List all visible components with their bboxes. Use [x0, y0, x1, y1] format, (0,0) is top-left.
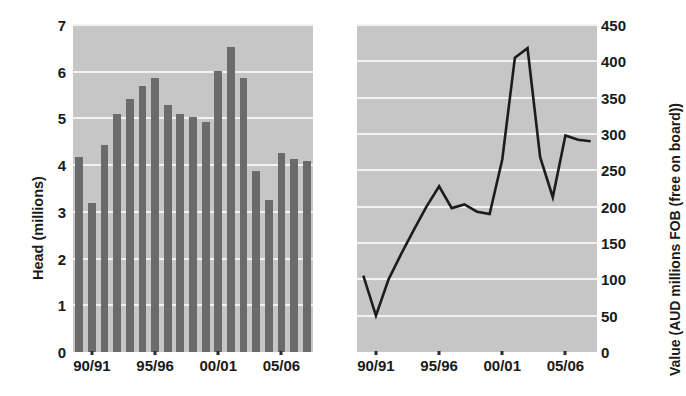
bar — [252, 171, 260, 352]
bar — [265, 200, 273, 352]
bar — [113, 114, 121, 352]
line-chart-plot-area — [357, 25, 597, 352]
y-tick-label: 100 — [601, 272, 626, 287]
two-panel-figure: 76543210 Head (millions) 90/9195/9600/01… — [0, 0, 686, 396]
x-tick-label: 00/01 — [199, 357, 237, 374]
value-line — [363, 48, 590, 315]
bar — [240, 78, 248, 352]
bar — [139, 86, 147, 352]
x-tick-mark — [501, 351, 504, 355]
y-tick-label: 0 — [601, 345, 609, 360]
bar — [290, 159, 298, 352]
bar — [176, 114, 184, 352]
x-tick-mark — [280, 351, 283, 355]
x-tick-mark — [438, 351, 441, 355]
bar — [214, 71, 222, 352]
line-chart-panel: 450400350300250200150100500 Value (AUD m… — [343, 0, 686, 396]
line-chart-y-axis-ticks: 450400350300250200150100500 — [601, 25, 647, 352]
bar — [189, 117, 197, 352]
line-chart-x-axis-labels: 90/9195/9600/0105/06 — [357, 357, 597, 379]
x-tick-label: 95/96 — [420, 357, 458, 374]
line-series — [357, 25, 597, 352]
y-tick-label: 2 — [58, 252, 66, 267]
y-tick-label: 4 — [58, 158, 66, 173]
bar-chart-x-tick-marks — [73, 351, 313, 356]
gridline — [73, 24, 313, 26]
x-tick-label: 90/91 — [357, 357, 395, 374]
line-chart-x-tick-marks — [357, 351, 597, 356]
x-tick-label: 05/06 — [263, 357, 301, 374]
bar-chart-plot-area — [73, 25, 313, 352]
x-tick-label: 05/06 — [547, 357, 585, 374]
bar — [151, 78, 159, 352]
bar-chart-x-axis-labels: 90/9195/9600/0105/06 — [73, 357, 313, 379]
y-tick-label: 7 — [58, 18, 66, 33]
x-tick-label: 90/91 — [73, 357, 111, 374]
bar — [278, 153, 286, 352]
bar — [227, 47, 235, 352]
y-tick-label: 5 — [58, 111, 66, 126]
y-tick-label: 150 — [601, 236, 626, 251]
x-tick-mark — [154, 351, 157, 355]
y-tick-label: 300 — [601, 127, 626, 142]
bar — [101, 145, 109, 352]
y-tick-label: 50 — [601, 309, 618, 324]
x-tick-mark — [564, 351, 567, 355]
line-chart-y-axis-title: Value (AUD millions FOB (free on board)) — [667, 103, 683, 376]
x-tick-mark — [374, 351, 377, 355]
bar — [88, 203, 96, 352]
x-tick-mark — [217, 351, 220, 355]
y-tick-label: 200 — [601, 200, 626, 215]
gridline — [73, 71, 313, 73]
y-tick-label: 6 — [58, 65, 66, 80]
x-tick-label: 95/96 — [136, 357, 174, 374]
y-tick-label: 3 — [58, 205, 66, 220]
y-tick-label: 350 — [601, 91, 626, 106]
y-tick-label: 450 — [601, 18, 626, 33]
bar — [75, 157, 83, 352]
bar-chart-y-axis-title: Head (millions) — [30, 176, 46, 280]
bar — [202, 122, 210, 352]
y-tick-label: 250 — [601, 163, 626, 178]
bar — [164, 105, 172, 352]
bar — [126, 99, 134, 352]
x-tick-label: 00/01 — [483, 357, 521, 374]
y-tick-label: 1 — [58, 298, 66, 313]
y-tick-label: 0 — [58, 345, 66, 360]
bar — [303, 161, 311, 352]
y-tick-label: 400 — [601, 54, 626, 69]
bar-chart-panel: 76543210 Head (millions) 90/9195/9600/01… — [0, 0, 343, 396]
x-tick-mark — [90, 351, 93, 355]
